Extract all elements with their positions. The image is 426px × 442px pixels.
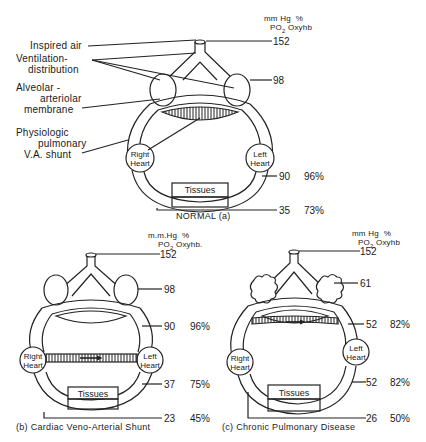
venous-po2-a: 35 bbox=[279, 205, 290, 216]
label-shunt-2: pulmonary bbox=[38, 138, 87, 149]
right-heart-label-a: RightHeart bbox=[127, 150, 153, 168]
caption-normal: NORMAL (a) bbox=[176, 211, 231, 221]
inspired-po2-a: 152 bbox=[273, 36, 290, 47]
arterial-po2-c: 52 bbox=[366, 377, 377, 388]
arterial-po2-a: 90 bbox=[279, 171, 290, 182]
units-pressure-a: mm Hg % bbox=[264, 14, 303, 23]
arterial-oxyhb-b: 75% bbox=[190, 379, 210, 390]
left-heart-label-c: LeftHeart bbox=[343, 344, 369, 362]
tissues-label-b: Tissues bbox=[68, 389, 118, 399]
arterial-po2-b: 37 bbox=[164, 379, 175, 390]
label-ventilation-2: distribution bbox=[28, 64, 79, 75]
left-heart-label-a: LeftHeart bbox=[247, 150, 273, 168]
alveolus-left-b bbox=[44, 275, 68, 305]
tissues-label-a: Tissues bbox=[172, 185, 228, 195]
alveolar-po2-a: 98 bbox=[273, 75, 284, 86]
venous-oxyhb-b: 45% bbox=[190, 413, 210, 424]
label-inspired-air: Inspired air bbox=[30, 40, 82, 51]
right-heart-label-b: RightHeart bbox=[20, 352, 46, 370]
inspired-po2-c: 152 bbox=[360, 246, 377, 257]
label-alveolar-1: Alveolar - bbox=[16, 82, 60, 93]
alveolar-po2-b: 98 bbox=[164, 284, 175, 295]
units-pressure-b: m.m.Hg % bbox=[148, 231, 189, 240]
caption-shunt: (b) Cardiac Veno-Arterial Shunt bbox=[16, 422, 150, 432]
arterial-oxyhb-c: 82% bbox=[390, 377, 410, 388]
pulm-vein-oxyhb-c: 82% bbox=[390, 319, 410, 330]
caption-copd: (c) Chronic Pulmonary Disease bbox=[222, 422, 355, 432]
units-header-a: PO2 Oxyhb bbox=[270, 23, 312, 36]
arterial-oxyhb-a: 96% bbox=[304, 171, 324, 182]
venous-po2-b: 23 bbox=[164, 413, 175, 424]
venous-po2-c: 26 bbox=[366, 413, 377, 424]
alveolus-right-c bbox=[316, 275, 343, 304]
left-heart-label-b: LeftHeart bbox=[137, 352, 163, 370]
pulm-vein-po2-c: 52 bbox=[366, 319, 377, 330]
venous-oxyhb-c: 50% bbox=[390, 413, 410, 424]
label-ventilation-1: Ventilation- bbox=[16, 53, 68, 64]
label-shunt-3: V.A. shunt bbox=[24, 149, 71, 160]
alveolus-right bbox=[224, 74, 250, 106]
alveolar-po2-c: 61 bbox=[360, 278, 371, 289]
venous-oxyhb-a: 73% bbox=[304, 205, 324, 216]
pulm-vein-oxyhb-b: 96% bbox=[190, 321, 210, 332]
units-pressure-c: mm Hg % bbox=[352, 229, 391, 238]
tissues-label-c: Tissues bbox=[268, 388, 320, 398]
inspired-po2-b: 152 bbox=[160, 249, 177, 260]
label-alveolar-3: membrane bbox=[24, 104, 73, 115]
alveolus-left-c bbox=[250, 275, 277, 304]
right-heart-label-c: RightHeart bbox=[227, 354, 253, 372]
label-shunt-1: Physiologic bbox=[16, 127, 69, 138]
pulm-vein-po2-b: 90 bbox=[164, 321, 175, 332]
alveolus-right-b bbox=[114, 275, 138, 305]
label-alveolar-2: arteriolar bbox=[40, 93, 81, 104]
